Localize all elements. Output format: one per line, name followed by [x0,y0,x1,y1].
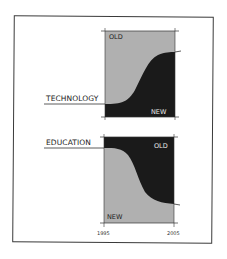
x-axis-end-label: 2005 [167,230,180,236]
technology-chart [44,28,181,120]
technology-new-label: NEW [151,108,166,116]
education-old-label: OLD [154,142,168,150]
x-axis-start-label: 1995 [97,230,110,236]
education-label: EDUCATION [46,138,91,147]
technology-old-label: OLD [109,33,123,41]
education-new-label: NEW [107,213,122,221]
technology-label: TECHNOLOGY [46,94,99,103]
